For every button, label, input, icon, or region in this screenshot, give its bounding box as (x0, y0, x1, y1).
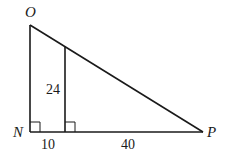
inner-height-label: 24 (46, 82, 60, 97)
triangle-diagram: O N P 24 10 40 (0, 0, 229, 154)
side-OP (30, 25, 203, 132)
vertex-label-N: N (12, 124, 24, 140)
vertex-label-O: O (25, 4, 36, 20)
vertex-label-P: P (206, 124, 216, 140)
right-angle-mark-N (30, 122, 40, 132)
diagram-canvas: O N P 24 10 40 (0, 0, 229, 154)
right-base-label: 40 (121, 137, 135, 152)
left-base-label: 10 (41, 137, 55, 152)
right-angle-mark-inner (65, 122, 75, 132)
